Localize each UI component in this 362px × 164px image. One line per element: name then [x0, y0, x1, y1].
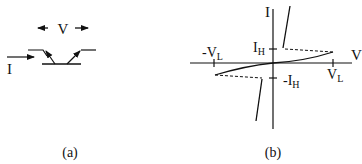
- emission-arrow-right-icon: [67, 51, 80, 64]
- upper-dashed-line: [285, 49, 333, 52]
- lower-dashed-line: [215, 75, 262, 78]
- vl-label: VL: [327, 67, 343, 84]
- figure-canvas: V I (a) V I -VL VL IH -IH (b): [0, 0, 362, 164]
- emission-arrow-left-icon: [46, 51, 55, 64]
- upper-branch: [283, 6, 290, 48]
- panel-b: V I -VL VL IH -IH (b): [190, 4, 362, 161]
- panel-a: V I (a): [7, 21, 96, 161]
- ih-label: IH: [253, 40, 265, 57]
- caption-b: (b): [265, 145, 282, 161]
- current-label: I: [7, 61, 12, 77]
- neg-ih-label: -IH: [283, 73, 300, 90]
- left-electrode: [28, 50, 47, 56]
- voltage-label: V: [58, 21, 69, 37]
- lower-branch: [256, 79, 262, 121]
- v-axis-label: V: [351, 47, 362, 63]
- i-axis-label: I: [265, 4, 270, 20]
- neg-vl-label: -VL: [202, 45, 223, 62]
- caption-a: (a): [62, 145, 78, 161]
